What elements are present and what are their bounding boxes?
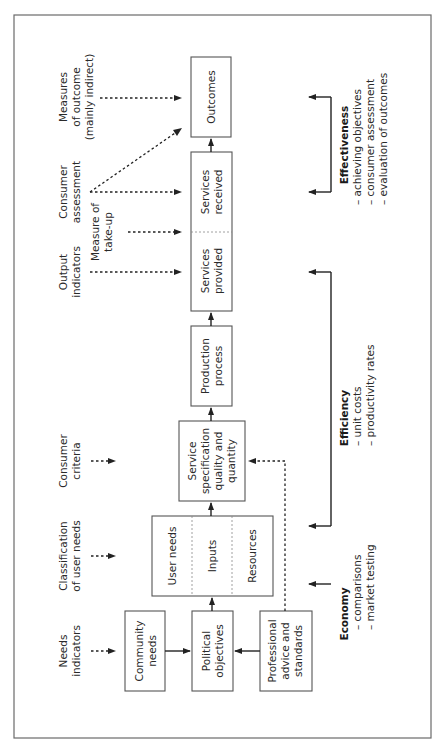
- svg-text:of outcome: of outcome: [70, 67, 82, 127]
- svg-text:Needs: Needs: [57, 635, 69, 668]
- efficiency-title: Efficiency: [338, 390, 350, 447]
- measures-of-outcome: Measures of outcome (mainly indirect): [57, 54, 182, 141]
- services-box: Services received Services provided: [191, 152, 232, 311]
- svg-text:criteria: criteria: [70, 442, 82, 479]
- spec-label-3: quality and: [212, 431, 224, 490]
- svg-text:– unit costs: – unit costs: [351, 386, 363, 446]
- outcomes-box: Outcomes: [191, 57, 231, 137]
- community-label-2: needs: [146, 635, 158, 667]
- svg-text:– evaluation of outcomes: – evaluation of outcomes: [377, 73, 389, 205]
- spec-label-1: Service: [186, 442, 198, 481]
- measure-of-take-up: Measure of take-up: [89, 203, 182, 261]
- svg-text:– market testing: – market testing: [364, 544, 376, 630]
- consumer-criteria: Consumer criteria: [57, 434, 116, 488]
- production-label-2: process: [212, 346, 224, 386]
- professional-to-spec-arrowhead: [248, 458, 256, 464]
- professional-label-1: Professional: [266, 619, 278, 682]
- spec-label-4: quantity: [225, 439, 237, 483]
- svg-text:Consumer: Consumer: [57, 165, 69, 219]
- services-provided-label-1: Services: [199, 249, 211, 293]
- services-received-label-1: Services: [199, 170, 211, 214]
- service-specification-box: Service specification quality and quanti…: [179, 421, 245, 501]
- community-label-1: Community: [133, 621, 145, 682]
- needs-indicators: Needs indicators: [57, 625, 116, 677]
- professional-label-2: advice and: [279, 622, 291, 680]
- svg-text:– consumer assessment: – consumer assessment: [364, 79, 376, 205]
- community-needs-box: Community needs: [125, 611, 165, 691]
- economy-title: Economy: [338, 587, 350, 640]
- performance-measurement-diagram: Outcomes Services received Services prov…: [0, 0, 436, 749]
- svg-text:take-up: take-up: [102, 212, 114, 252]
- consumer-assessment: Consumer assessment: [57, 128, 182, 223]
- spec-label-2: specification: [199, 428, 211, 494]
- services-provided-label-2: provided: [212, 248, 224, 294]
- user-needs-label: User needs: [166, 527, 178, 586]
- svg-text:indicators: indicators: [70, 625, 82, 677]
- production-label-1: Production: [199, 338, 211, 394]
- svg-text:Measures: Measures: [57, 72, 69, 122]
- services-received-label-2: received: [212, 169, 224, 214]
- classification-of-user-needs: Classification of user needs: [57, 520, 116, 591]
- svg-text:– comparisons: – comparisons: [351, 555, 363, 630]
- economy-bracket: Economy – comparisons – market testing: [309, 544, 376, 640]
- svg-text:indicators: indicators: [70, 246, 82, 298]
- svg-text:– achieving objectives: – achieving objectives: [351, 89, 363, 205]
- professional-advice-box: Professional advice and standards: [260, 611, 312, 691]
- svg-text:(mainly indirect): (mainly indirect): [83, 54, 95, 141]
- output-indicators: Output indicators: [57, 246, 182, 298]
- efficiency-bracket: Efficiency – unit costs – productivity r…: [309, 272, 376, 526]
- svg-text:assessment: assessment: [70, 161, 82, 223]
- svg-text:– productivity rates: – productivity rates: [364, 345, 376, 447]
- svg-text:Output: Output: [57, 254, 69, 290]
- production-process-box: Production process: [191, 326, 232, 406]
- inputs-box: User needs Inputs Resources: [152, 516, 273, 596]
- effectiveness-title: Effectiveness: [338, 106, 350, 185]
- political-label-2: objectives: [213, 624, 225, 677]
- svg-text:of user needs: of user needs: [70, 520, 82, 591]
- svg-text:Classification: Classification: [57, 521, 69, 590]
- political-objectives-box: Political objectives: [192, 611, 233, 691]
- inputs-label: Inputs: [206, 540, 218, 573]
- resources-label: Resources: [246, 529, 258, 583]
- effectiveness-bracket: Effectiveness – achieving objectives – c…: [309, 73, 389, 205]
- professional-label-3: standards: [292, 625, 304, 677]
- outcomes-label: Outcomes: [205, 70, 217, 123]
- political-label-1: Political: [200, 631, 212, 671]
- svg-text:Consumer: Consumer: [57, 434, 69, 488]
- svg-text:Measure of: Measure of: [89, 203, 101, 261]
